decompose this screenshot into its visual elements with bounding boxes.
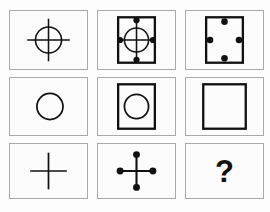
puzzle-cell-6[interactable] xyxy=(185,77,264,136)
puzzle-cell-7[interactable] xyxy=(9,143,88,199)
dot-right xyxy=(149,168,156,175)
puzzle-cell-2[interactable] xyxy=(97,10,176,70)
dot-bottom xyxy=(133,57,139,63)
dot-left xyxy=(117,37,123,43)
figure-circle xyxy=(10,78,87,135)
dot-top xyxy=(133,17,139,23)
dot-bottom xyxy=(133,184,140,191)
figure-square-circle-cross-dots xyxy=(98,11,175,69)
question-mark-label: ? xyxy=(186,144,263,198)
puzzle-cell-8[interactable] xyxy=(97,143,176,199)
dot-right xyxy=(150,37,156,43)
figure-cross-dots xyxy=(98,144,175,198)
puzzle-grid: ? xyxy=(9,10,263,199)
figure-square-dots xyxy=(186,11,263,69)
puzzle-cell-3[interactable] xyxy=(185,10,264,70)
figure-cross xyxy=(10,144,87,198)
dot-right xyxy=(236,37,243,44)
puzzle-cell-5[interactable] xyxy=(97,77,176,136)
puzzle-cell-9[interactable]: ? xyxy=(185,143,264,199)
matrix-puzzle: ? xyxy=(0,0,270,212)
dot-bottom xyxy=(221,55,228,62)
dot-top xyxy=(133,151,140,158)
puzzle-cell-4[interactable] xyxy=(9,77,88,136)
figure-circle-cross xyxy=(10,11,87,69)
figure-square-circle xyxy=(98,78,175,135)
dot-top xyxy=(221,18,228,25)
puzzle-cell-1[interactable] xyxy=(9,10,88,70)
dot-left xyxy=(207,37,214,44)
figure-square xyxy=(186,78,263,135)
dot-left xyxy=(117,168,124,175)
